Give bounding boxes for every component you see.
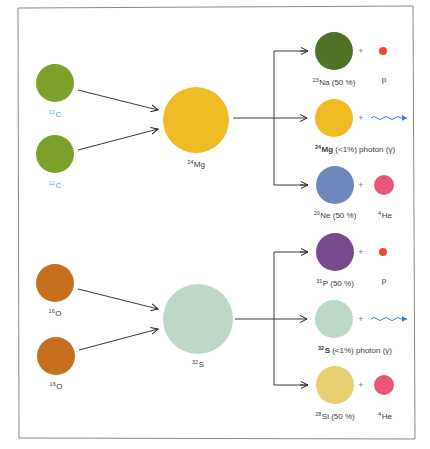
magnesium-24-compound-label: 24Mg xyxy=(187,157,205,170)
oxygen-16-nucleus-1 xyxy=(36,264,74,302)
carbon-12-label-2: 12C xyxy=(49,178,61,191)
helium-4-label-bottom: 4He xyxy=(378,409,392,422)
phosphorus-31-label: 31P (50 %) xyxy=(316,276,354,289)
proton-particle-top xyxy=(379,47,387,55)
arrow-o1-to-s xyxy=(78,289,158,309)
helium-4-particle-bottom xyxy=(374,375,394,395)
magnesium-24-nucleus xyxy=(315,99,353,137)
fusion-diagram: + + + + + + 12C 12C 24Mg 23Na (50 %) p 2… xyxy=(0,0,430,449)
proton-label-bottom: p xyxy=(382,276,386,286)
proton-label-top: p xyxy=(382,75,386,85)
sulfur-32-photon-label: 32S (<1%) photon (γ) xyxy=(318,343,392,356)
frame-border xyxy=(18,6,415,439)
magnesium-24-photon-label: 24Mg (<1%) photon (γ) xyxy=(315,142,395,155)
silicon-28-nucleus xyxy=(316,366,354,404)
arrow-o2-to-s xyxy=(79,329,158,350)
helium-4-label-top: 4He xyxy=(378,208,392,221)
silicon-28-label: 28Si (50 %) xyxy=(315,409,355,422)
helium-4-particle-top xyxy=(374,175,394,195)
phosphorus-31-nucleus xyxy=(316,233,354,271)
plus-sign: + xyxy=(358,247,363,257)
carbon-12-label-1: 12C xyxy=(49,107,61,120)
carbon-12-nucleus-1 xyxy=(36,64,74,102)
branch-bracket-bottom xyxy=(274,252,307,385)
magnesium-24-compound-nucleus xyxy=(163,87,229,153)
neon-20-label: 20Ne (50 %) xyxy=(314,208,357,221)
oxygen-16-nucleus-2 xyxy=(37,337,75,375)
sulfur-32-nucleus xyxy=(315,300,353,338)
plus-sign: + xyxy=(358,113,363,123)
plus-sign: + xyxy=(358,314,363,324)
neon-20-nucleus xyxy=(316,166,354,204)
proton-particle-bottom xyxy=(379,248,387,256)
oxygen-16-label-1: 16O xyxy=(49,306,62,319)
sulfur-32-compound-nucleus xyxy=(163,284,233,354)
photon-wave-top xyxy=(371,117,407,120)
photon-wave-bottom xyxy=(371,318,407,321)
oxygen-16-label-2: 16O xyxy=(50,379,63,392)
diagram-canvas xyxy=(0,0,430,449)
plus-sign: + xyxy=(358,180,363,190)
arrow-c1-to-mg xyxy=(78,90,158,110)
plus-sign: + xyxy=(358,46,363,56)
sodium-23-nucleus xyxy=(315,32,353,70)
sodium-23-label: 23Na (50 %) xyxy=(313,75,356,88)
arrow-c2-to-mg xyxy=(78,129,158,150)
sulfur-32-compound-label: 32S xyxy=(192,357,204,370)
plus-sign: + xyxy=(358,380,363,390)
carbon-12-nucleus-2 xyxy=(36,135,74,173)
